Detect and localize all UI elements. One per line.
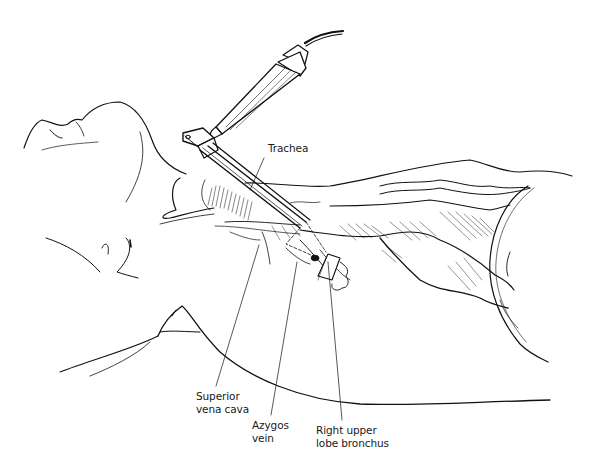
label-right-upper-lobe-bronchus-line-1: Right upper — [316, 424, 389, 437]
label-superior-vena-cava: Superior vena cava — [196, 390, 249, 415]
label-azygos-vein-line-2: vein — [252, 432, 289, 445]
mediastinoscope-handle — [210, 45, 308, 138]
label-trachea: Trachea — [268, 142, 308, 155]
label-azygos-vein: Azygos vein — [252, 419, 289, 444]
neck-larynx — [160, 178, 252, 224]
label-azygos-vein-line-1: Azygos — [252, 419, 289, 432]
patient-head — [24, 102, 186, 278]
torso-outline — [60, 306, 550, 405]
mediastinum — [262, 212, 514, 308]
label-right-upper-lobe-bronchus: Right upper lobe bronchus — [316, 424, 389, 449]
label-superior-vena-cava-line-2: vena cava — [196, 403, 249, 416]
leader-right-upper-lobe-bronchus — [328, 262, 342, 420]
light-cable — [305, 31, 343, 46]
arm-outline — [490, 186, 548, 362]
label-superior-vena-cava-line-1: Superior — [196, 390, 249, 403]
leader-azygos-vein — [271, 262, 297, 415]
leader-lines — [216, 158, 342, 420]
label-trachea-line-1: Trachea — [268, 142, 308, 155]
label-right-upper-lobe-bronchus-line-2: lobe bronchus — [316, 437, 389, 450]
mediastinoscopy-illustration — [0, 0, 596, 468]
